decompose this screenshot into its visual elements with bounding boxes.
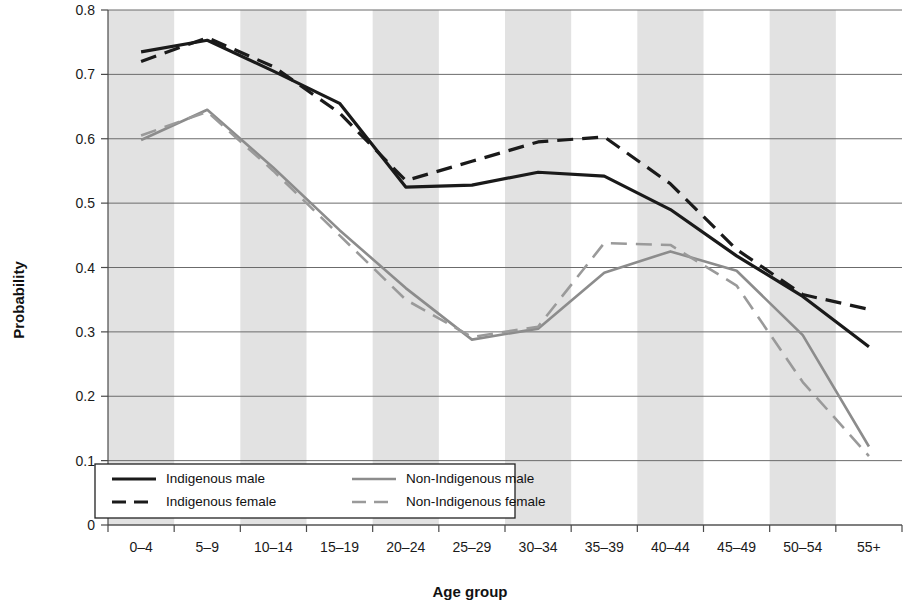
- x-tick-label-25–29: 25–29: [452, 539, 491, 555]
- chart-legend: Indigenous maleNon-Indigenous maleIndige…: [95, 464, 546, 518]
- legend-label-non-indigenous-female: Non-Indigenous female: [406, 494, 546, 509]
- legend-label-non-indigenous-male: Non-Indigenous male: [406, 471, 534, 486]
- x-tick-label-40–44: 40–44: [651, 539, 690, 555]
- y-tick-label: 0.6: [76, 131, 96, 147]
- probability-by-age-group-line-chart: 0.80.70.60.50.40.30.20.10 0–45–910–1415–…: [0, 0, 910, 605]
- y-axis-tick-labels: 0.80.70.60.50.40.30.20.10: [76, 2, 96, 533]
- y-tick-label: 0.5: [76, 195, 96, 211]
- y-tick-label: 0: [87, 517, 95, 533]
- x-tick-label-45–49: 45–49: [717, 539, 756, 555]
- x-tick-label-55+: 55+: [857, 539, 881, 555]
- y-axis-title: Probability: [10, 261, 27, 339]
- x-tick-label-50–54: 50–54: [783, 539, 822, 555]
- y-tick-label: 0.4: [76, 260, 96, 276]
- x-axis-title: Age group: [433, 583, 508, 600]
- x-tick-label-10–14: 10–14: [254, 539, 293, 555]
- x-tick-label-30–34: 30–34: [519, 539, 558, 555]
- x-tick-label-5–9: 5–9: [196, 539, 220, 555]
- x-tick-label-15–19: 15–19: [320, 539, 359, 555]
- y-tick-label: 0.1: [76, 453, 96, 469]
- y-tick-label: 0.7: [76, 66, 96, 82]
- x-tick-label-35–39: 35–39: [585, 539, 624, 555]
- y-tick-label: 0.8: [76, 2, 96, 18]
- y-tick-label: 0.2: [76, 388, 96, 404]
- legend-label-indigenous-female: Indigenous female: [166, 494, 276, 509]
- x-tick-label-20–24: 20–24: [386, 539, 425, 555]
- x-tick-label-0–4: 0–4: [129, 539, 153, 555]
- y-tick-label: 0.3: [76, 324, 96, 340]
- chart-figure: 0.80.70.60.50.40.30.20.10 0–45–910–1415–…: [0, 0, 910, 605]
- legend-label-indigenous-male: Indigenous male: [166, 471, 265, 486]
